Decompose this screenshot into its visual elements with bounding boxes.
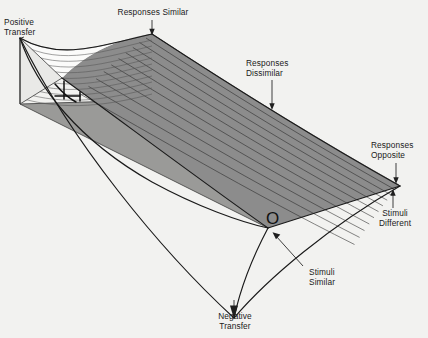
label-positive-transfer: Positive Transfer bbox=[4, 18, 35, 37]
label-stimuli-different: Stimuli Different bbox=[366, 209, 424, 228]
label-responses-dissimilar: Responses Dissimilar bbox=[246, 59, 288, 78]
transfer-surface-drawing bbox=[0, 0, 428, 338]
figure-root: Positive Transfer Responses Similar Resp… bbox=[0, 0, 428, 338]
leader-stimuli-similar bbox=[276, 236, 303, 266]
origin-label: O bbox=[266, 210, 279, 227]
label-responses-opposite: Responses Opposite bbox=[371, 141, 413, 160]
label-stimuli-similar: Stimuli Similar bbox=[309, 268, 335, 287]
label-negative-transfer: Negative Transfer bbox=[197, 312, 273, 331]
label-responses-similar: Responses Similar bbox=[98, 8, 208, 18]
